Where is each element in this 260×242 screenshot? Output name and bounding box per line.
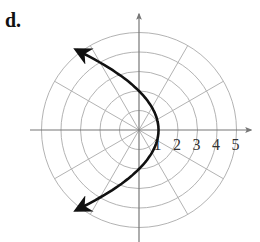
polar-plot: 12345 bbox=[0, 0, 260, 242]
grid-spoke bbox=[55, 130, 139, 179]
grid-spoke bbox=[90, 46, 139, 130]
tick-label: 2 bbox=[173, 136, 181, 153]
radial-tick-labels: 12345 bbox=[154, 136, 240, 153]
grid-spoke bbox=[55, 81, 139, 130]
tick-label: 4 bbox=[212, 136, 220, 153]
tick-label: 3 bbox=[193, 136, 201, 153]
grid-spoke bbox=[139, 46, 188, 130]
grid-spoke bbox=[90, 130, 139, 214]
tick-label: 5 bbox=[232, 136, 240, 153]
